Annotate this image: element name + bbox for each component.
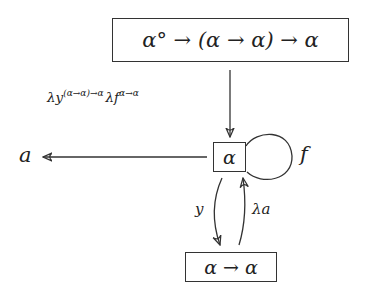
node-bottom-label: α → α — [204, 256, 258, 278]
arrow-center-to-bottom — [214, 178, 222, 245]
node-top-label: α° → (α → α) → α — [142, 28, 318, 52]
edge-label-lambda-abstractions: λy(α→α)→αλfα→α — [47, 88, 139, 105]
node-center-label: α — [223, 146, 236, 168]
node-top-type: α° → (α → α) → α — [112, 18, 349, 62]
node-center-alpha: α — [213, 142, 246, 172]
node-left-a: a — [19, 143, 32, 167]
edge-label-lambda-a: λa — [252, 200, 270, 218]
arrow-bottom-to-center — [239, 178, 245, 245]
edge-label-f: f — [300, 142, 308, 166]
self-loop-f — [246, 134, 292, 179]
node-bottom-type: α → α — [185, 252, 277, 282]
edge-label-y: y — [195, 200, 203, 218]
